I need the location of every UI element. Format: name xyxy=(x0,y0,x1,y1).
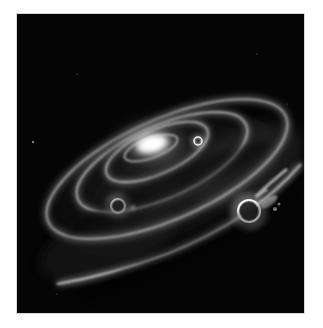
galaxy-image xyxy=(17,14,304,313)
inner-ring-knot xyxy=(192,135,204,147)
galaxy-illustration xyxy=(17,14,304,313)
